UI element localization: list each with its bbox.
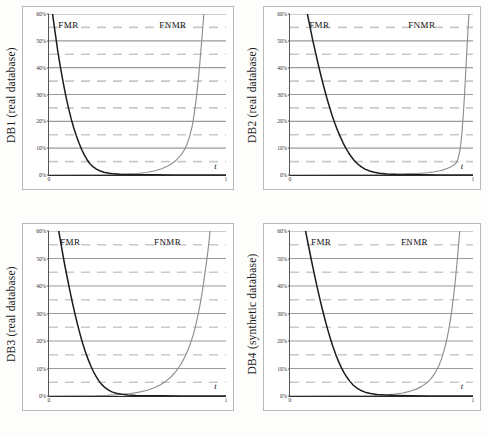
plot-area-wrapper-db3: 0%10%20%30%40%50%60%01FMRFNMRt [48,231,226,397]
curve-annotation-fmr: FMR [311,237,331,247]
y-tick-mark [288,231,291,232]
curve-annotation-fnmr: FNMR [408,20,435,30]
x-axis-label-db4: t [461,381,463,391]
y-tick-mark [47,67,50,68]
plot-area-db1: 0%10%20%30%40%50%60%01FMRFNMRt [48,14,226,176]
chart-panel-db3: DB3 (real database)0%10%20%30%40%50%60%0… [0,217,240,437]
chart-panel-db2: DB2 (real database)0%10%20%30%40%50%60%0… [241,0,487,216]
y-tick-mark [47,286,50,287]
plot-area-db3: 0%10%20%30%40%50%60%01FMRFNMRt [48,231,226,397]
plot-area-wrapper-db4: 0%10%20%30%40%50%60%01FMRFNMRt [289,231,473,397]
x-tick-label: 0 [48,175,51,182]
y-tick-mark [288,121,291,122]
chart-panel-db1: DB1 (real database)0%10%20%30%40%50%60%0… [0,0,240,216]
x-tick-label: 1 [472,175,475,182]
curve-annotation-fmr: FMR [309,20,329,30]
y-tick-mark [47,40,50,41]
y-axis-label-db4: DB4 (synthetic database) [239,217,265,411]
plot-area-db4: 0%10%20%30%40%50%60%01FMRFNMRt [289,231,473,397]
y-tick-mark [288,368,291,369]
curve-annotation-fmr: FMR [58,20,78,30]
y-tick-mark [47,313,50,314]
y-tick-mark [47,231,50,232]
curve-annotation-fmr: FMR [60,237,80,247]
plot-canvas-db1 [49,14,226,175]
y-tick-mark [47,148,50,149]
chart-panel-db4: DB4 (synthetic database)0%10%20%30%40%50… [241,217,487,437]
x-tick-label: 0 [48,396,51,403]
y-tick-mark [47,341,50,342]
x-tick-label: 0 [289,396,292,403]
y-tick-mark [288,286,291,287]
plot-area-db2: 0%10%20%30%40%50%60%01FMRFNMRt [289,14,473,176]
y-tick-mark [47,258,50,259]
x-tick-label: 1 [225,175,228,182]
x-tick-label: 1 [472,396,475,403]
y-tick-mark [288,14,291,15]
y-tick-mark [47,94,50,95]
y-tick-mark [47,368,50,369]
plot-canvas-db3 [49,231,226,396]
x-tick-label: 0 [289,175,292,182]
y-tick-mark [288,341,291,342]
y-axis-label-db3: DB3 (real database) [0,217,24,411]
y-tick-mark [288,40,291,41]
y-tick-mark [288,148,291,149]
y-tick-mark [288,94,291,95]
y-axis-label-text: DB1 (real database) [5,47,17,143]
x-axis-label-db2: t [461,161,463,171]
curve-annotation-fnmr: FNMR [159,20,186,30]
plot-area-wrapper-db2: 0%10%20%30%40%50%60%01FMRFNMRt [289,14,473,176]
y-tick-mark [47,14,50,15]
y-tick-mark [288,258,291,259]
y-axis-label-db2: DB2 (real database) [239,0,265,190]
figure-root: DB1 (real database)0%10%20%30%40%50%60%0… [0,0,487,437]
plot-area-wrapper-db1: 0%10%20%30%40%50%60%01FMRFNMRt [48,14,226,176]
y-tick-mark [288,67,291,68]
x-tick-label: 1 [225,396,228,403]
curve-annotation-fnmr: FNMR [401,237,428,247]
y-tick-mark [288,313,291,314]
y-axis-label-text: DB4 (synthetic database) [246,253,258,374]
curve-annotation-fnmr: FNMR [154,237,181,247]
x-axis-label-db1: t [214,161,216,171]
y-tick-mark [47,121,50,122]
plot-canvas-db2 [290,14,473,175]
y-axis-label-text: DB3 (real database) [5,266,17,362]
y-axis-label-db1: DB1 (real database) [0,0,24,190]
y-axis-label-text: DB2 (real database) [246,47,258,143]
x-axis-label-db3: t [214,381,216,391]
plot-canvas-db4 [290,231,473,396]
